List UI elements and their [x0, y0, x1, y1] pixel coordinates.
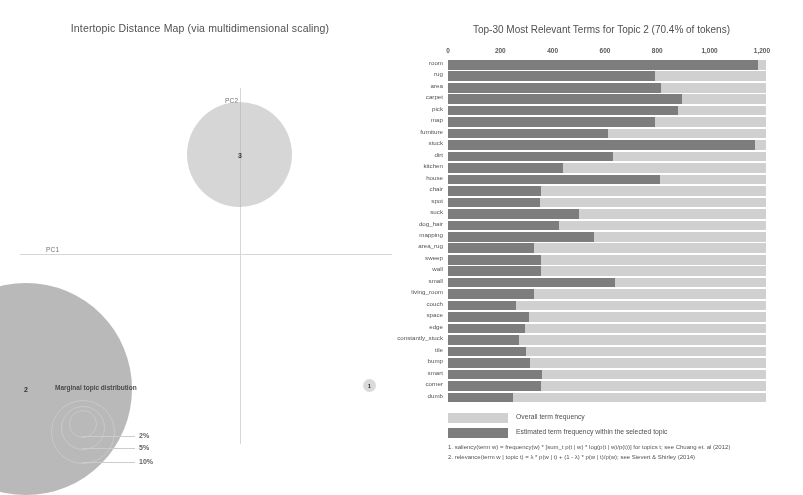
term-label[interactable]: furniture — [420, 128, 443, 135]
bar-row[interactable]: chair — [448, 186, 775, 196]
bar-row[interactable]: couch — [448, 301, 775, 311]
bar-row[interactable]: area_rug — [448, 243, 775, 253]
bar-estimated-frequency — [448, 175, 660, 185]
pc1-axis-line — [20, 254, 392, 255]
marginal-circle-10pct — [51, 400, 115, 464]
bar-estimated-frequency — [448, 255, 541, 265]
term-label[interactable]: house — [426, 174, 443, 181]
bar-row[interactable]: corner — [448, 381, 775, 391]
bar-row[interactable]: stuck — [448, 140, 775, 150]
x-tick-4: 800 — [652, 47, 663, 54]
bar-estimated-frequency — [448, 243, 534, 253]
bar-estimated-frequency — [448, 312, 529, 322]
bar-row[interactable]: constantly_stuck — [448, 335, 775, 345]
term-label[interactable]: room — [429, 59, 443, 66]
bar-row[interactable]: dumb — [448, 393, 775, 403]
term-label[interactable]: constantly_stuck — [397, 334, 443, 341]
term-label[interactable]: edge — [429, 323, 443, 330]
term-label[interactable]: bump — [428, 357, 443, 364]
legend-row-estimated: Estimated term frequency within the sele… — [448, 427, 798, 440]
bar-plot-area: 02004006008001,0001,200 roomrugareacarpe… — [448, 60, 775, 404]
term-label[interactable]: dumb — [428, 392, 443, 399]
term-label[interactable]: chair — [430, 185, 443, 192]
term-label[interactable]: stuck — [429, 139, 443, 146]
bar-row[interactable]: mapping — [448, 232, 775, 242]
term-label[interactable]: area_rug — [418, 242, 443, 249]
marginal-legend-title: Marginal topic distribution — [55, 384, 137, 391]
legend-swatch-overall — [448, 413, 508, 423]
bar-row[interactable]: area — [448, 83, 775, 93]
marginal-tick-5pct — [82, 448, 135, 449]
term-label[interactable]: smart — [428, 369, 443, 376]
legend-label-estimated: Estimated term frequency within the sele… — [516, 428, 668, 435]
intertopic-scatter-plot[interactable]: PC1 PC2 3 2 1 — [0, 40, 400, 440]
bar-row[interactable]: small — [448, 278, 775, 288]
bar-row[interactable]: carpet — [448, 94, 775, 104]
bar-row[interactable]: bump — [448, 358, 775, 368]
bar-estimated-frequency — [448, 289, 534, 299]
bar-chart-legend: Overall term frequency Estimated term fr… — [448, 412, 798, 442]
bar-estimated-frequency — [448, 152, 613, 162]
bar-estimated-frequency — [448, 393, 513, 403]
bar-row[interactable]: smart — [448, 370, 775, 380]
term-label[interactable]: wall — [432, 265, 443, 272]
term-label[interactable]: couch — [426, 300, 443, 307]
marginal-topic-distribution-legend: Marginal topic distribution 2% 5% 10% — [55, 384, 235, 489]
bar-row[interactable]: rug — [448, 71, 775, 81]
bar-row[interactable]: space — [448, 312, 775, 322]
bar-row[interactable]: sweep — [448, 255, 775, 265]
term-label[interactable]: dog_hair — [419, 220, 443, 227]
bar-row[interactable]: wall — [448, 266, 775, 276]
bar-row[interactable]: dog_hair — [448, 221, 775, 231]
top-terms-panel: Top-30 Most Relevant Terms for Topic 2 (… — [400, 0, 803, 489]
bar-row[interactable]: living_room — [448, 289, 775, 299]
term-label[interactable]: corner — [425, 380, 443, 387]
bar-estimated-frequency — [448, 209, 579, 219]
term-label[interactable]: mapping — [419, 231, 443, 238]
topic-bubble-2-label: 2 — [24, 386, 28, 393]
term-label[interactable]: kitchen — [423, 162, 443, 169]
x-tick-6: 1,200 — [754, 47, 770, 54]
bar-row[interactable]: tile — [448, 347, 775, 357]
bar-row[interactable]: dirt — [448, 152, 775, 162]
term-label[interactable]: small — [429, 277, 443, 284]
term-label[interactable]: tile — [435, 346, 443, 353]
term-label[interactable]: suck — [430, 208, 443, 215]
bar-estimated-frequency — [448, 232, 594, 242]
bar-row[interactable]: spot — [448, 198, 775, 208]
x-tick-0: 0 — [446, 47, 450, 54]
term-label[interactable]: pick — [432, 105, 443, 112]
bar-row[interactable]: edge — [448, 324, 775, 334]
term-label[interactable]: carpet — [426, 93, 443, 100]
intertopic-distance-panel: Intertopic Distance Map (via multidimens… — [0, 0, 400, 489]
bar-estimated-frequency — [448, 94, 682, 104]
bar-row[interactable]: suck — [448, 209, 775, 219]
bar-estimated-frequency — [448, 266, 541, 276]
term-label[interactable]: spot — [431, 197, 443, 204]
marginal-label-2pct: 2% — [139, 432, 149, 439]
bar-row[interactable]: furniture — [448, 129, 775, 139]
term-label[interactable]: space — [426, 311, 443, 318]
term-label[interactable]: area — [431, 82, 443, 89]
bar-row[interactable]: pick — [448, 106, 775, 116]
bar-estimated-frequency — [448, 71, 655, 81]
term-label[interactable]: map — [431, 116, 443, 123]
bar-row[interactable]: house — [448, 175, 775, 185]
term-label[interactable]: living_room — [411, 288, 443, 295]
footnotes: 1. saliency(term w) = frequency(w) * [su… — [448, 443, 800, 462]
legend-swatch-estimated — [448, 428, 508, 438]
bar-estimated-frequency — [448, 278, 615, 288]
bar-estimated-frequency — [448, 370, 542, 380]
top-terms-bar-chart[interactable]: 02004006008001,0001,200 roomrugareacarpe… — [400, 42, 803, 407]
bar-estimated-frequency — [448, 83, 661, 93]
pc1-axis-label: PC1 — [46, 246, 59, 253]
bar-estimated-frequency — [448, 301, 516, 311]
bar-row[interactable]: map — [448, 117, 775, 127]
term-label[interactable]: sweep — [425, 254, 443, 261]
bar-row[interactable]: room — [448, 60, 775, 70]
term-label[interactable]: rug — [434, 70, 443, 77]
bar-row[interactable]: kitchen — [448, 163, 775, 173]
marginal-tick-10pct — [82, 462, 135, 463]
bar-estimated-frequency — [448, 117, 655, 127]
term-label[interactable]: dirt — [434, 151, 443, 158]
